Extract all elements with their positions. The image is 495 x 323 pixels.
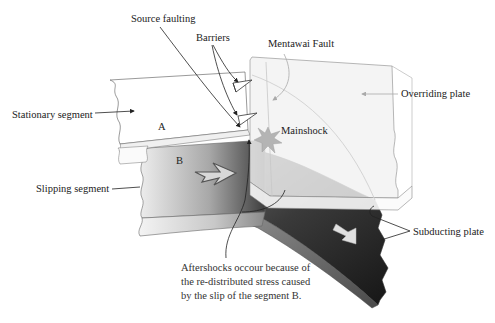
label-mainshock: Mainshock bbox=[281, 125, 328, 136]
label-mentawai-fault: Mentawai Fault bbox=[268, 38, 334, 49]
label-aftershocks-line-2: the re-distributed stress caused bbox=[181, 276, 311, 287]
label-aftershocks-line-1: Aftershocks occour because of bbox=[181, 262, 311, 273]
label-segment-a: A bbox=[158, 121, 166, 132]
label-stationary-segment: Stationary segment bbox=[12, 109, 93, 120]
label-segment-b: B bbox=[176, 155, 183, 166]
label-aftershocks-line-3: by the slip of the segment B. bbox=[181, 290, 301, 301]
label-barriers: Barriers bbox=[196, 32, 230, 43]
subduction-fault-diagram: Source faulting Barriers Mentawai Fault … bbox=[0, 0, 495, 323]
label-source-faulting: Source faulting bbox=[131, 13, 196, 24]
label-slipping-segment: Slipping segment bbox=[36, 183, 109, 194]
slipping-segment-b bbox=[139, 140, 265, 236]
label-subducting-plate: Subducting plate bbox=[413, 226, 484, 237]
label-overriding-plate: Overriding plate bbox=[401, 88, 470, 99]
